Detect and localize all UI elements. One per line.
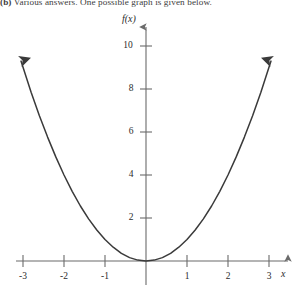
- y-tick-label-4: 4: [124, 169, 138, 179]
- x-tick-label-3: 3: [262, 271, 276, 281]
- x-tick-label-2: 2: [221, 271, 235, 281]
- x-tick-label-1: 1: [180, 271, 194, 281]
- y-tick-label-10: 10: [118, 40, 138, 50]
- y-axis-label: f(x): [122, 13, 136, 24]
- y-tick-label-6: 6: [124, 126, 138, 136]
- y-tick-label-8: 8: [124, 83, 138, 93]
- x-tick-label-neg2: -2: [54, 271, 74, 281]
- x-tick-label-neg3: -3: [13, 271, 33, 281]
- parabola-plot: [0, 0, 296, 303]
- x-axis-label: x: [281, 268, 285, 279]
- x-tick-label-neg1: -1: [95, 271, 115, 281]
- figure-container: (b) Various answers. One possible graph …: [0, 0, 296, 303]
- y-tick-label-2: 2: [124, 212, 138, 222]
